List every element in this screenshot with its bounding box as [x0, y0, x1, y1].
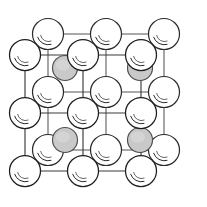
corner-atom — [10, 156, 41, 187]
corner-atom — [68, 98, 99, 129]
corner-atom — [68, 40, 99, 71]
corner-atom — [68, 156, 99, 187]
face-centre-atom-highlight — [131, 132, 146, 143]
front-atom-layer — [10, 40, 157, 187]
face-centre-atom — [53, 128, 78, 153]
corner-atom — [126, 156, 157, 187]
corner-atom — [126, 40, 157, 71]
face-centre-atom — [128, 128, 153, 153]
crystal-lattice-figure — [0, 0, 207, 207]
corner-atom — [126, 98, 157, 129]
lattice-svg-canvas — [0, 0, 207, 207]
corner-atom — [10, 40, 41, 71]
corner-atom — [10, 98, 41, 129]
face-centre-atom-highlight — [56, 60, 71, 71]
face-centre-atom-highlight — [56, 132, 71, 143]
